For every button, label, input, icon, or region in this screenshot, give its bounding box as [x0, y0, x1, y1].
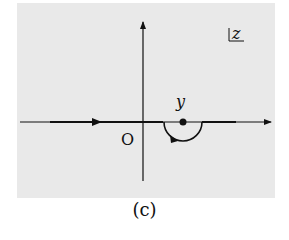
plane-label: z — [232, 24, 240, 43]
pole-point — [180, 119, 187, 126]
semicircle-arrow-icon — [170, 135, 178, 143]
figure-caption: (c) — [0, 199, 289, 220]
contour-direction-arrow-icon — [92, 118, 102, 126]
origin-label: O — [121, 130, 134, 149]
point-label: y — [176, 92, 185, 111]
